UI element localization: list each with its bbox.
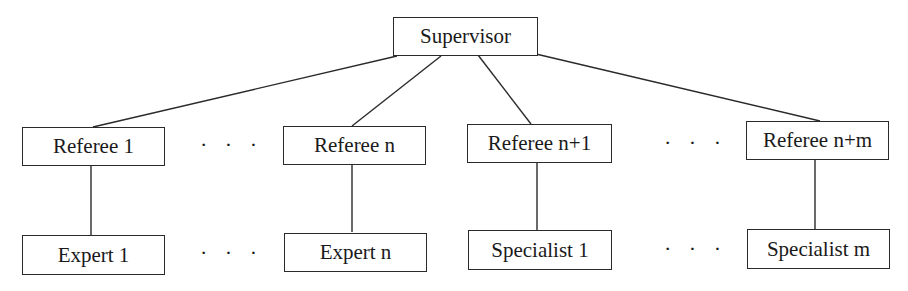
expert-1-label: Expert 1: [58, 243, 130, 268]
referee-n-plus-m-node: Referee n+m: [746, 121, 889, 160]
supervisor-node: Supervisor: [393, 17, 538, 56]
expert-1-node: Expert 1: [22, 235, 165, 275]
referee-n-label: Referee n: [314, 133, 395, 158]
referee-n-plus-1-node: Referee n+1: [467, 124, 612, 163]
specialist-m-label: Specialist m: [767, 237, 870, 262]
ellipsis-referees-right: · · ·: [664, 130, 727, 156]
expert-n-node: Expert n: [284, 233, 427, 272]
specialist-1-label: Specialist 1: [491, 238, 588, 263]
expert-n-label: Expert n: [320, 240, 392, 265]
referee-1-node: Referee 1: [22, 127, 165, 166]
supervisor-label: Supervisor: [420, 24, 511, 49]
referee-1-label: Referee 1: [53, 134, 134, 159]
specialist-m-node: Specialist m: [747, 229, 890, 269]
ellipsis-specialists: · · ·: [664, 236, 727, 262]
hierarchy-diagram: Supervisor Referee 1 · · · Referee n Ref…: [0, 0, 908, 291]
referee-n-plus-1-label: Referee n+1: [488, 131, 591, 156]
referee-n-plus-m-label: Referee n+m: [763, 128, 872, 153]
ellipsis-referees-left: · · ·: [200, 132, 263, 158]
ellipsis-experts: · · ·: [200, 240, 263, 266]
specialist-1-node: Specialist 1: [468, 230, 612, 270]
referee-n-node: Referee n: [283, 126, 426, 165]
